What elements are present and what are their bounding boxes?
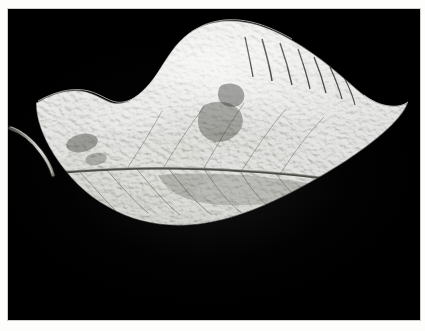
photograph-black-field <box>8 9 420 320</box>
leaf-blade <box>8 9 420 320</box>
leaf-specimen <box>8 9 420 320</box>
caption <box>8 321 420 331</box>
photo-plate <box>0 0 425 331</box>
leaf-illustration <box>8 9 420 320</box>
